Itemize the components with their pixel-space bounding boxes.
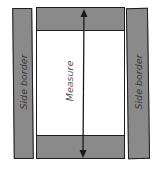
left-side-border-label: Side border: [18, 54, 29, 109]
page-layout-diagram: Side border Side border Measure: [0, 0, 157, 172]
right-side-border-label: Side border: [133, 54, 144, 109]
measure-label: Measure: [64, 61, 75, 102]
